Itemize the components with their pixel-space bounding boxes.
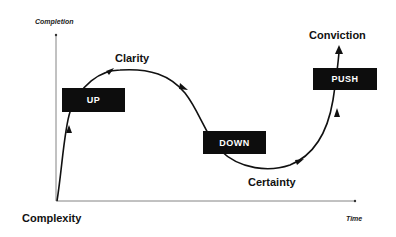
curve-arrow-icon bbox=[106, 68, 114, 75]
curve-arrow-icon bbox=[179, 83, 188, 90]
y-axis-label: Completion bbox=[35, 18, 74, 25]
y-axis-arrow-icon bbox=[55, 34, 57, 36]
curve-arrow-icon bbox=[335, 45, 343, 54]
x-axis-label: Time bbox=[346, 215, 362, 222]
x-axis-arrow-icon bbox=[354, 200, 356, 202]
phase-box-push: PUSH bbox=[313, 68, 377, 90]
origin-label-complexity: Complexity bbox=[22, 212, 81, 224]
progress-curve bbox=[57, 52, 339, 201]
curve-arrow-icon bbox=[334, 108, 340, 117]
curve-arrow-icon bbox=[295, 159, 304, 165]
stage-label-conviction: Conviction bbox=[309, 29, 366, 41]
phase-box-up: UP bbox=[62, 88, 125, 112]
phase-box-down: DOWN bbox=[203, 131, 266, 154]
stage-label-certainty: Certainty bbox=[248, 176, 296, 188]
stage-label-clarity: Clarity bbox=[115, 52, 149, 64]
